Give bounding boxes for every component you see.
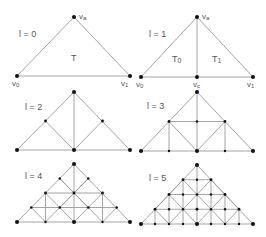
vertex-v0 (139, 75, 143, 79)
level-label: l = 5 (149, 173, 166, 183)
vertex (72, 148, 76, 152)
vertex (128, 220, 132, 224)
triangle-T (17, 17, 130, 76)
vertex (182, 178, 185, 181)
vertex (15, 148, 19, 152)
edge (60, 179, 103, 223)
vertex-label-va: va (79, 12, 87, 21)
vertex (168, 193, 171, 196)
vertex-label-v1: v1 (247, 80, 255, 89)
vertex (101, 120, 104, 123)
level-label: l = 3 (147, 101, 164, 111)
vertex (195, 90, 199, 94)
vertex-label-vc: vc (193, 80, 200, 89)
vertex (195, 149, 199, 153)
vertex (59, 206, 61, 208)
panel-level-1: l = 1 T0 T1 va v0 vc v1 (136, 12, 255, 89)
vertex (168, 120, 171, 123)
vertex (196, 120, 198, 122)
vertex-vc (195, 75, 199, 79)
vertex (59, 177, 61, 179)
vertex (210, 178, 213, 181)
vertex (210, 223, 212, 225)
vertex-va (195, 15, 199, 19)
refinement-diagram: l = 0 T va v0 v1 l = 1 T0 T1 va v0 vc v1… (0, 0, 266, 237)
triangle-label: T (71, 53, 77, 63)
vertex (195, 222, 199, 226)
vertex (196, 193, 198, 195)
panel-level-3: l = 3 (139, 90, 255, 153)
panel-level-5: l = 5 (139, 163, 255, 226)
vertex (154, 223, 156, 225)
vertex-v0 (15, 74, 19, 78)
vertex (44, 120, 47, 123)
vertex (139, 149, 143, 153)
vertex (101, 221, 103, 223)
vertex (210, 208, 212, 210)
vertex (238, 223, 240, 225)
vertex (224, 223, 226, 225)
edge (31, 208, 45, 223)
vertex (224, 193, 227, 196)
panel-level-2: l = 2 (15, 90, 132, 152)
vertex (195, 163, 199, 167)
vertex (251, 222, 255, 226)
vertex (224, 120, 227, 123)
level-label: l = 2 (25, 102, 42, 112)
edge (169, 180, 211, 224)
edge (155, 209, 169, 224)
vertex (168, 223, 170, 225)
vertex-label-v0: v0 (136, 80, 144, 89)
vertex (44, 192, 47, 195)
vertex (196, 179, 198, 181)
level-label: l = 1 (149, 29, 166, 39)
vertex (128, 148, 132, 152)
vertex (72, 162, 76, 166)
vertex (210, 193, 212, 195)
vertex (72, 90, 76, 94)
edge (103, 208, 117, 223)
vertex-label-v0: v0 (12, 79, 20, 88)
vertex (139, 222, 143, 226)
edge (46, 121, 75, 150)
triangle-label-T1: T1 (212, 54, 222, 64)
vertex-v1 (251, 75, 255, 79)
edge (169, 122, 197, 152)
vertex (72, 220, 76, 224)
edge (183, 180, 225, 224)
vertex (224, 208, 226, 210)
level-label: l = 4 (25, 171, 42, 181)
edge (197, 122, 225, 152)
vertex (44, 221, 46, 223)
vertex (73, 192, 76, 195)
outer-triangle (17, 92, 130, 150)
vertex (168, 208, 170, 210)
vertex (238, 208, 241, 211)
panel-level-4: l = 4 (15, 162, 132, 224)
edge (46, 179, 89, 223)
vertex-label-v1: v1 (121, 79, 129, 88)
vertex (251, 149, 255, 153)
panel-level-0: l = 0 T va v0 v1 (12, 12, 132, 88)
vertex (182, 208, 184, 210)
vertex (224, 150, 226, 152)
vertex (87, 206, 89, 208)
triangle-label-T0: T0 (172, 54, 182, 64)
vertex (30, 206, 32, 208)
vertex-va (72, 15, 76, 19)
vertex (182, 193, 184, 195)
vertex (101, 192, 104, 195)
vertex (182, 223, 184, 225)
level-label: l = 0 (19, 29, 36, 39)
vertex-v1 (128, 74, 132, 78)
edge (225, 209, 239, 224)
vertex (168, 150, 170, 152)
vertex (87, 177, 89, 179)
vertex (154, 208, 157, 211)
vertex (15, 220, 19, 224)
vertex (116, 206, 118, 208)
edge (74, 121, 103, 150)
vertex (196, 208, 199, 211)
vertex-label-va: va (202, 12, 210, 21)
